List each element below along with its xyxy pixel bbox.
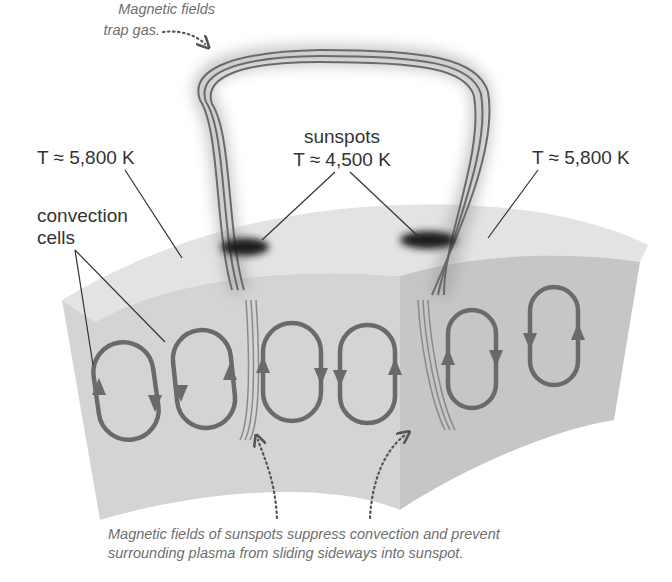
convection-label-line2: cells bbox=[37, 227, 75, 248]
caption-line2: surrounding plasma from sliding sideways… bbox=[108, 545, 463, 561]
convection-label-line1: convection bbox=[37, 205, 128, 226]
trap-gas-label-line2: trap gas. bbox=[104, 22, 160, 38]
temp-left-label: T ≈ 5,800 K bbox=[37, 147, 135, 168]
sunspot-right bbox=[400, 231, 456, 249]
temp-sunspots-label: T ≈ 4,500 K bbox=[293, 149, 391, 170]
temp-right-label: T ≈ 5,800 K bbox=[532, 147, 630, 168]
trap-gas-label-line1: Magnetic fields bbox=[118, 1, 215, 17]
caption-line1: Magnetic fields of sunspots suppress con… bbox=[108, 526, 501, 542]
sunspot-diagram: Magnetic fields trap gas. T ≈ 5,800 K su… bbox=[0, 0, 672, 582]
sunspot-left bbox=[221, 238, 269, 256]
sunspots-label: sunspots bbox=[304, 126, 380, 147]
